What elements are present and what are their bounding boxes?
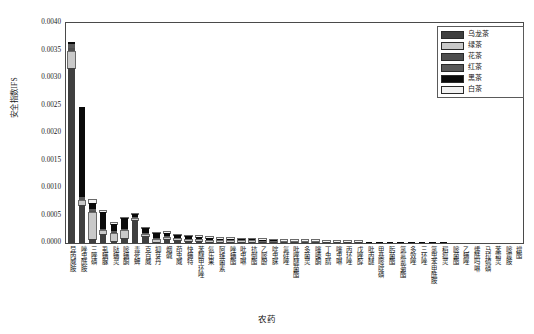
x-tick-label: 哒螨灵 xyxy=(109,246,120,265)
bar-column xyxy=(397,242,404,243)
x-tick-label: 噻嗪酮 xyxy=(310,246,321,265)
bar-column xyxy=(440,242,447,243)
x-tick-label: 氯氟氰菊酯 xyxy=(395,246,406,277)
bar-column xyxy=(174,235,181,243)
bar-column xyxy=(196,236,203,243)
bar-segment-0 xyxy=(132,220,139,243)
legend-item[interactable]: 红茶 xyxy=(441,62,520,73)
bar-column xyxy=(121,218,128,243)
x-tick-label: 苯醚甲环唑 xyxy=(194,246,205,277)
bar-segment-0 xyxy=(174,240,181,243)
x-tick-label: 克百威 xyxy=(140,246,151,265)
bar-segment-0 xyxy=(312,242,319,243)
chart-legend: 乌龙茶绿茶花茶红茶黑茶白茶 xyxy=(437,26,524,98)
bar-segment-0 xyxy=(291,242,298,243)
x-tick-label: 苯霜灵 xyxy=(491,246,502,265)
y-tick-label: 0.0035 xyxy=(0,47,61,54)
legend-label: 花茶 xyxy=(468,53,482,60)
bar-segment-0 xyxy=(259,242,266,243)
x-tick-label: 唑虫酰胺 xyxy=(77,246,88,271)
bar-column xyxy=(227,238,234,243)
x-tick-label: 稻瘟灵 xyxy=(438,246,449,265)
x-tick-label: 甲基嘧啶磷 xyxy=(374,246,385,277)
bar-segment-0 xyxy=(249,242,256,243)
legend-swatch-icon xyxy=(441,31,464,39)
x-tick-label: 茚虫威 xyxy=(172,246,183,265)
x-tick-label: 虱螨脲 xyxy=(98,246,109,265)
bar-column xyxy=(79,107,86,243)
y-tick-label: 0.0020 xyxy=(0,129,61,136)
bar-column xyxy=(302,240,309,243)
y-tick-label: 0.0005 xyxy=(0,212,61,219)
x-tick-label: 吡唑醚菌酯 xyxy=(289,246,300,277)
y-tick-label: 0.0010 xyxy=(0,184,61,191)
x-tick-label: 乙螨唑 xyxy=(459,246,470,265)
bar-column xyxy=(291,240,298,243)
bar-segment-0 xyxy=(79,205,86,243)
bar-segment-4 xyxy=(79,107,86,197)
bar-column xyxy=(312,240,319,243)
bar-segment-4 xyxy=(111,224,118,231)
x-tick-label: 氨乐果 xyxy=(204,246,215,265)
bar-segment-0 xyxy=(217,242,224,243)
bar-column xyxy=(132,214,139,243)
bar-column xyxy=(89,200,96,243)
bar-segment-0 xyxy=(323,242,330,243)
x-tick-label: 丙环唑 xyxy=(342,246,353,265)
bar-segment-4 xyxy=(100,212,107,229)
legend-item[interactable]: 乌龙茶 xyxy=(441,29,520,40)
bar-column xyxy=(334,241,341,243)
bar-column xyxy=(164,232,171,243)
y-axis-title: 安全指数IFS xyxy=(8,58,19,138)
legend-item[interactable]: 白茶 xyxy=(441,84,520,95)
x-tick-label: 嘧霉胺 xyxy=(502,246,513,265)
x-tick-label: 快螨特 xyxy=(183,246,194,265)
bar-column xyxy=(344,241,351,243)
y-tick-label: 0.0040 xyxy=(0,19,61,26)
clipped-header-text xyxy=(8,0,308,8)
bar-segment-0 xyxy=(121,238,128,244)
y-tick-label: 0.0000 xyxy=(0,239,61,246)
x-axis-title: 农药 xyxy=(0,312,534,324)
bar-segment-0 xyxy=(89,239,96,243)
bar-column xyxy=(142,228,149,243)
legend-item[interactable]: 花茶 xyxy=(441,51,520,62)
bar-column xyxy=(270,240,277,243)
bar-column xyxy=(259,239,266,243)
bar-segment-0 xyxy=(334,242,341,243)
x-tick-label: 啶虫脒 xyxy=(268,246,279,265)
bar-segment-4 xyxy=(376,242,383,243)
x-tick-label: 乙嘧酚 xyxy=(257,246,268,265)
bar-column xyxy=(100,211,107,243)
x-tick-label: 阿维菌素 xyxy=(215,246,226,271)
x-axis-tick-labels: 异丙威胺唑虫酰胺三唑磷虱螨脲哒螨灵嘧螨酮毒死蜱克百威抑芽丹烟碱茚虫威快螨特苯醚甲… xyxy=(66,246,523,308)
legend-item[interactable]: 绿茶 xyxy=(441,40,520,51)
bar-segment-1 xyxy=(121,231,128,238)
bar-segment-0 xyxy=(344,242,351,243)
bar-segment-4 xyxy=(429,242,436,243)
bar-column xyxy=(387,242,394,243)
legend-swatch-icon xyxy=(441,53,464,61)
bar-segment-4 xyxy=(440,242,447,243)
y-tick-label: 0.0025 xyxy=(0,102,61,109)
bar-segment-4 xyxy=(408,242,415,243)
x-tick-label: 吡丙醚 xyxy=(364,246,375,265)
y-tick-label: 0.0015 xyxy=(0,157,61,164)
bar-column xyxy=(185,236,192,243)
bar-segment-0 xyxy=(238,242,245,243)
bar-segment-0 xyxy=(164,239,171,243)
x-tick-label: 丁虫腈 xyxy=(321,246,332,265)
legend-item[interactable]: 黑茶 xyxy=(441,73,520,84)
bar-column xyxy=(355,241,362,243)
bar-column xyxy=(429,242,436,243)
bar-segment-4 xyxy=(366,242,373,243)
bar-segment-0 xyxy=(100,234,107,243)
x-tick-label: 三唑磷 xyxy=(87,246,98,265)
legend-label: 乌龙茶 xyxy=(468,31,489,38)
x-tick-label: 氟硅唑 xyxy=(279,246,290,265)
bar-segment-1 xyxy=(111,234,118,242)
bar-column xyxy=(111,223,118,243)
legend-label: 绿茶 xyxy=(468,42,482,49)
bar-column xyxy=(249,239,256,243)
bar-column xyxy=(153,233,160,243)
